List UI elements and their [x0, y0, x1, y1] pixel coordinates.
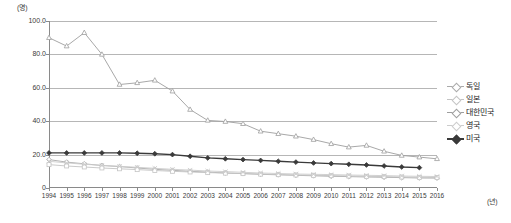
legend-label: 독일 [466, 82, 480, 91]
x-axis-unit-label: (년) [487, 196, 498, 206]
legend-item-1[interactable]: 일본 [447, 93, 509, 106]
legend-marker-icon [447, 82, 464, 91]
legend-label: 일본 [466, 95, 480, 104]
series-line [49, 33, 437, 159]
x-tick-mark [314, 188, 315, 191]
legend-label: 미국 [466, 134, 480, 143]
x-tick-mark [384, 188, 385, 191]
data-point-marker [294, 160, 299, 165]
data-point-marker [82, 30, 87, 34]
y-axis-tick: 0 [13, 184, 46, 191]
data-point-marker [329, 161, 334, 166]
data-point-marker [82, 151, 87, 156]
x-tick-mark [49, 188, 50, 191]
legend-marker-icon [447, 134, 464, 143]
data-point-marker [135, 151, 140, 156]
x-tick-mark [243, 188, 244, 191]
data-point-marker [117, 151, 122, 156]
data-point-marker [241, 157, 246, 162]
x-tick-mark [402, 188, 403, 191]
legend-item-2[interactable]: 대한민국 [447, 106, 509, 119]
data-point-marker [152, 151, 157, 156]
data-point-marker [205, 118, 210, 122]
x-tick-mark [366, 188, 367, 191]
line-chart: (명) (년) 020.040.060.080.0100.0 199419951… [0, 0, 511, 223]
legend-marker-icon [447, 108, 464, 117]
legend-marker-icon [447, 121, 464, 130]
y-axis-tick: 40.0 [13, 117, 46, 124]
y-axis-tick: 60.0 [13, 84, 46, 91]
x-tick-mark [437, 188, 438, 191]
x-tick-mark [261, 188, 262, 191]
data-point-marker [346, 162, 351, 167]
legend-label: 대한민국 [466, 108, 494, 117]
y-axis-tick: 80.0 [13, 50, 46, 57]
plot-area [49, 21, 437, 188]
data-point-marker [47, 35, 52, 39]
legend-item-4[interactable]: 미국 [447, 132, 509, 145]
data-point-marker [152, 78, 157, 82]
y-axis-tick: 100.0 [13, 17, 46, 24]
x-tick-mark [296, 188, 297, 191]
x-tick-mark [349, 188, 350, 191]
x-tick-mark [155, 188, 156, 191]
data-point-marker [382, 164, 387, 169]
data-point-marker [188, 154, 193, 159]
data-point-marker [64, 151, 69, 156]
data-point-marker [100, 151, 105, 156]
x-tick-mark [419, 188, 420, 191]
legend-marker-icon [447, 95, 464, 104]
data-point-marker [399, 165, 404, 170]
x-axis-tick: 2016 [425, 192, 449, 199]
legend-label: 영국 [466, 121, 480, 130]
data-point-marker [417, 165, 422, 170]
y-axis-tick: 20.0 [13, 151, 46, 158]
data-point-marker [170, 152, 175, 157]
x-tick-mark [120, 188, 121, 191]
x-tick-mark [137, 188, 138, 191]
data-point-marker [311, 161, 316, 166]
x-tick-mark [67, 188, 68, 191]
x-tick-mark [225, 188, 226, 191]
x-tick-mark [278, 188, 279, 191]
series-2 [47, 30, 440, 160]
data-point-marker [364, 143, 369, 147]
data-point-marker [170, 89, 175, 93]
data-point-marker [258, 158, 263, 163]
legend-item-0[interactable]: 독일 [447, 80, 509, 93]
legend-item-3[interactable]: 영국 [447, 119, 509, 132]
data-point-marker [276, 159, 281, 164]
data-point-marker [223, 156, 228, 161]
x-tick-mark [331, 188, 332, 191]
x-tick-mark [190, 188, 191, 191]
y-axis-unit-label: (명) [17, 2, 28, 12]
x-tick-mark [208, 188, 209, 191]
x-tick-mark [102, 188, 103, 191]
data-point-marker [364, 163, 369, 168]
data-point-marker [205, 156, 210, 161]
x-tick-mark [84, 188, 85, 191]
chart-legend: 독일일본대한민국영국미국 [447, 80, 509, 145]
data-series-group [49, 21, 437, 188]
x-tick-mark [172, 188, 173, 191]
